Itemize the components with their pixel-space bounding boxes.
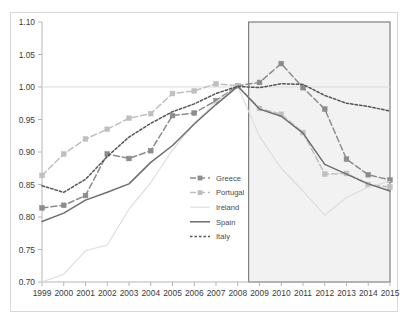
x-tick-label: 2009 — [250, 288, 269, 298]
data-point-greece — [83, 193, 88, 198]
y-tick-label: 0.85 — [19, 180, 36, 190]
data-point-portugal — [214, 81, 219, 86]
data-point-greece — [344, 157, 349, 162]
y-tick-label: 1.10 — [19, 17, 36, 27]
data-point-greece — [61, 203, 66, 208]
data-point-greece — [279, 61, 284, 66]
data-point-greece — [170, 113, 175, 118]
legend-label: Italy — [216, 232, 230, 241]
y-tick-label: 1.05 — [19, 50, 36, 60]
data-point-portugal — [61, 152, 66, 157]
data-point-portugal — [105, 127, 110, 132]
legend-item-italy[interactable]: Italy — [190, 232, 230, 241]
x-tick-label: 2011 — [294, 288, 312, 298]
chart-container: 0.700.750.800.850.900.951.001.051.101999… — [0, 0, 408, 324]
data-point-portugal — [148, 111, 153, 116]
x-tick-label: 2013 — [337, 288, 356, 298]
y-tick-label: 0.80 — [19, 212, 36, 222]
legend-label: Ireland — [216, 203, 239, 212]
legend-label: Portugal — [216, 188, 245, 197]
legend-label: Greece — [216, 174, 241, 183]
x-tick-label: 2001 — [76, 288, 95, 298]
data-point-greece — [366, 172, 371, 177]
y-tick-label: 0.75 — [19, 245, 36, 255]
y-tick-label: 1.00 — [19, 82, 36, 92]
data-point-portugal — [192, 89, 197, 94]
data-point-greece — [192, 111, 197, 116]
legend-label: Spain — [216, 218, 235, 227]
x-tick-label: 2004 — [141, 288, 160, 298]
x-tick-label: 2012 — [315, 288, 334, 298]
legend-swatch-marker — [198, 190, 203, 195]
x-tick-label: 2000 — [54, 288, 73, 298]
data-point-portugal — [83, 137, 88, 142]
data-point-greece — [322, 107, 327, 112]
data-point-portugal — [40, 173, 45, 178]
data-point-greece — [257, 80, 262, 85]
line-chart-plot: 0.700.750.800.850.900.951.001.051.101999… — [0, 0, 408, 324]
data-point-portugal — [127, 116, 132, 121]
data-point-portugal — [322, 172, 327, 177]
legend-item-portugal[interactable]: Portugal — [190, 188, 245, 197]
legend-item-spain[interactable]: Spain — [190, 218, 235, 227]
data-point-greece — [148, 148, 153, 153]
y-tick-label: 0.90 — [19, 147, 36, 157]
x-tick-label: 1999 — [33, 288, 52, 298]
x-tick-label: 2008 — [228, 288, 247, 298]
legend-item-greece[interactable]: Greece — [190, 174, 241, 183]
data-point-greece — [40, 206, 45, 211]
x-tick-label: 2014 — [359, 288, 378, 298]
x-tick-label: 2010 — [272, 288, 291, 298]
data-point-portugal — [170, 91, 175, 96]
x-tick-label: 2003 — [120, 288, 139, 298]
y-tick-label: 0.70 — [19, 277, 36, 287]
y-tick-label: 0.95 — [19, 115, 36, 125]
x-tick-label: 2006 — [185, 288, 204, 298]
data-point-portugal — [388, 185, 393, 190]
data-point-greece — [127, 156, 132, 161]
x-tick-label: 2002 — [98, 288, 117, 298]
legend-item-ireland[interactable]: Ireland — [190, 203, 239, 212]
legend-swatch-marker — [198, 176, 203, 181]
x-tick-label: 2007 — [207, 288, 226, 298]
x-tick-label: 2015 — [381, 288, 400, 298]
x-tick-label: 2005 — [163, 288, 182, 298]
